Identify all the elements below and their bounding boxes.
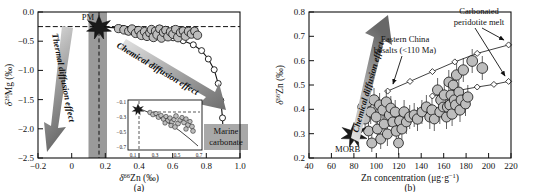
panel-b-ytick-3: 0.5 (294, 80, 306, 90)
panel-a-xtick-0: −0.2 (30, 161, 46, 171)
inset-ytick-2: −0.5 (117, 129, 127, 135)
panel-a-inset: −0.1 −0.3 −0.5 −0.7 0.1 0.3 0.5 0.7 (117, 99, 203, 159)
panel-b-ytick-1: 0.3 (294, 129, 306, 139)
panel-b-caption: (b) (404, 183, 415, 192)
panel-b-plot-area: Chemical diffusion effect Eastern China … (335, 6, 512, 155)
pm-label: PM (82, 12, 95, 22)
panel-b-ytick-0: 0.2 (294, 153, 305, 163)
panel-a-ytick-3: −1.5 (18, 95, 35, 105)
inset-ytick-0: −0.1 (117, 99, 127, 105)
marine-carbonate-label-2: carbonate (209, 137, 243, 147)
panel-a-xtick-labels: −0.2 0 0.2 0.4 0.6 0.8 1.0 (30, 161, 246, 171)
figure-container: Thermal diffusion effect Chemical diffus… (0, 0, 538, 192)
panel-b-xtick-2: 80 (349, 161, 359, 171)
morb-label: MORB (335, 144, 361, 154)
panel-a-xtick-3: 0.4 (133, 161, 145, 171)
panel-a-data-points (114, 25, 201, 43)
panel-a-xtick-5: 0.8 (201, 161, 213, 171)
panel-b-ytick-2: 0.4 (294, 104, 306, 114)
panel-a-yaxis-rest: Mg (‰) (4, 64, 15, 95)
carbonated-melt-leader-1 (482, 28, 504, 40)
eastern-china-label-1: Eastern China (381, 34, 430, 44)
panel-b-ytick-labels: 0.8 0.7 0.6 0.5 0.4 0.3 0.2 (294, 7, 306, 163)
panel-b-xtick-1: 60 (327, 161, 337, 171)
panel-a-xtick-6: 1.0 (234, 161, 246, 171)
panel-a-caption: (a) (134, 183, 145, 192)
panel-b-yaxis-rest: Zn (‰) (275, 65, 286, 94)
inset-xtick-2: 0.5 (174, 152, 181, 158)
panel-a-ytick-1: −0.5 (18, 36, 35, 46)
inset-xtick-3: 0.7 (196, 152, 203, 158)
panel-a-ytick-labels: 0.0 −0.5 −1.0 −1.5 −2.0 −2.5 (18, 7, 35, 163)
panel-b-ytick-6: 0.8 (294, 7, 306, 17)
panel-b-xtick-6: 160 (437, 161, 451, 171)
panel-a-ytick-0: 0.0 (23, 7, 35, 17)
panel-b-xtick-4: 120 (392, 161, 406, 171)
panel-b-xaxis-sup: −1 (449, 172, 456, 179)
panel-b-ytick-5: 0.7 (294, 31, 306, 41)
chemical-diffusion-label-a: Chemical diffusion effect (115, 40, 201, 97)
panel-b-ytick-4: 0.6 (294, 56, 306, 66)
inset-xtick-1: 0.3 (152, 152, 159, 158)
panel-a-yaxis-title: δ26Mg (‰) (3, 64, 16, 106)
panel-b-xaxis-end: ) (456, 173, 459, 184)
inset-ytick-1: −0.3 (117, 114, 127, 120)
panel-a-xtick-2: 0.2 (100, 161, 111, 171)
panel-b-xtick-7: 180 (459, 161, 473, 171)
panel-a-xtick-1: 0 (69, 161, 74, 171)
panel-b-xtick-9: 220 (504, 161, 518, 171)
inset-ytick-3: −0.7 (117, 144, 127, 150)
panel-a-ytick-4: −2.0 (18, 124, 35, 134)
panel-b-svg: Chemical diffusion effect Eastern China … (269, 0, 538, 192)
panel-b-yaxis-title: δ66Zn (‰) (274, 65, 287, 105)
eastern-china-leader-line (393, 56, 402, 84)
panel-a-xtick-4: 0.6 (167, 161, 179, 171)
eastern-china-label-2: basalts (<110 Ma) (374, 45, 436, 55)
marine-carbonate-label-1: Marine (214, 126, 239, 136)
carbonated-melt-label-1: Carbonated (459, 6, 499, 16)
carbonated-melt-label-2: peridotite melt (454, 17, 505, 27)
panel-b-xtick-5: 140 (414, 161, 428, 171)
inset-xtick-0: 0.1 (130, 152, 137, 158)
panel-a-ytick-2: −1.0 (18, 65, 35, 75)
panel-b: Chemical diffusion effect Eastern China … (269, 0, 538, 192)
panel-a: Thermal diffusion effect Chemical diffus… (0, 0, 269, 192)
panel-b-xtick-3: 100 (370, 161, 384, 171)
panel-b-xtick-8: 200 (482, 161, 496, 171)
panel-a-svg: Thermal diffusion effect Chemical diffus… (0, 0, 269, 192)
panel-b-xtick-labels: 40 60 80 100 120 140 160 180 200 220 (305, 161, 519, 171)
panel-b-xtick-0: 40 (305, 161, 315, 171)
